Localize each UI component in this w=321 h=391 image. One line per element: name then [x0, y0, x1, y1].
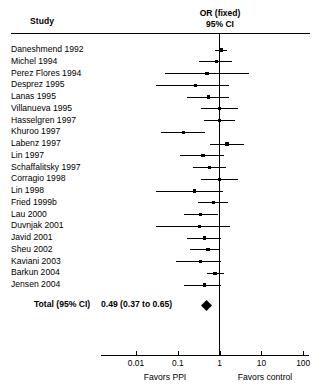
- effect-estimate-marker: [193, 189, 196, 192]
- effect-estimate-marker: [201, 154, 204, 157]
- study-label: Javid 2001: [11, 233, 53, 242]
- x-axis-line: [101, 355, 309, 356]
- study-label: Hasselgren 1997: [11, 116, 76, 125]
- favors-right-label: Favors control: [238, 372, 292, 382]
- effect-estimate-marker: [205, 72, 208, 75]
- effect-estimate-marker: [212, 201, 215, 204]
- x-axis-tick: [303, 351, 304, 356]
- favors-left-label: Favors PPI: [144, 372, 187, 382]
- study-label: Jensen 2004: [11, 280, 60, 289]
- x-axis-tick-label: 10: [257, 358, 266, 368]
- x-axis-tick: [220, 351, 221, 356]
- effect-estimate-marker: [225, 142, 228, 145]
- effect-estimate-marker: [218, 107, 221, 110]
- study-label: Corragio 1998: [11, 174, 65, 183]
- study-label: Fried 1999b: [11, 198, 57, 207]
- study-label: Lin 1998: [11, 186, 44, 195]
- confidence-interval-line: [156, 226, 230, 227]
- study-label: Khuroo 1997: [11, 127, 60, 136]
- effect-estimate-marker: [218, 119, 221, 122]
- effect-estimate-marker: [198, 225, 201, 228]
- x-axis-tick-label: 0.1: [172, 358, 184, 368]
- effect-estimate-marker: [213, 272, 216, 275]
- x-axis-tick: [136, 351, 137, 356]
- x-axis-tick-label: 100: [296, 358, 310, 368]
- study-label: Lanas 1995: [11, 92, 56, 101]
- study-label: Lin 1997: [11, 151, 44, 160]
- study-label: Michel 1994: [11, 57, 57, 66]
- effect-estimate-marker: [182, 131, 185, 134]
- x-axis-tick-label: 1: [217, 358, 222, 368]
- study-label: Sheu 2002: [11, 245, 53, 254]
- column-header-or-line1: OR (fixed): [176, 8, 264, 19]
- summary-row-label: Total (95% CI): [34, 299, 90, 309]
- study-label: Kaviani 2003: [11, 257, 61, 266]
- effect-estimate-marker: [220, 48, 223, 51]
- column-header-or-line2: 95% CI: [176, 19, 264, 30]
- study-label: Labenz 1997: [11, 139, 61, 148]
- effect-estimate-marker: [199, 260, 202, 263]
- study-label: Lau 2000: [11, 210, 47, 219]
- x-axis-tick: [261, 351, 262, 356]
- column-header-or: OR (fixed) 95% CI: [176, 8, 264, 29]
- effect-estimate-marker: [203, 236, 206, 239]
- study-label: Schaffalitsky 1997: [11, 163, 81, 172]
- x-axis-tick-label: 0.01: [128, 358, 144, 368]
- study-label: Perez Flores 1994: [11, 69, 81, 78]
- study-label: Barkun 2004: [11, 268, 60, 277]
- study-label: Desprez 1995: [11, 80, 65, 89]
- effect-estimate-marker: [199, 213, 202, 216]
- header-divider: [11, 33, 310, 34]
- column-header-study: Study: [30, 16, 54, 26]
- summary-diamond: [201, 300, 212, 311]
- effect-estimate-marker: [207, 95, 210, 98]
- effect-estimate-marker: [208, 166, 211, 169]
- confidence-interval-line: [156, 191, 223, 192]
- effect-estimate-marker: [206, 248, 209, 251]
- null-effect-reference-line: [219, 34, 220, 355]
- effect-estimate-marker: [215, 60, 218, 63]
- confidence-interval-line: [190, 249, 219, 250]
- study-label: Daneshmend 1992: [11, 45, 84, 54]
- forest-plot: Study OR (fixed) 95% CI Daneshmend 1992M…: [0, 0, 321, 391]
- study-label: Villanueva 1995: [11, 104, 72, 113]
- x-axis-tick: [178, 351, 179, 356]
- effect-estimate-marker: [203, 283, 206, 286]
- effect-estimate-marker: [194, 84, 197, 87]
- study-label: Duvnjak 2001: [11, 221, 64, 230]
- effect-estimate-marker: [218, 178, 221, 181]
- summary-row-value: 0.49 (0.37 to 0.65): [101, 299, 172, 309]
